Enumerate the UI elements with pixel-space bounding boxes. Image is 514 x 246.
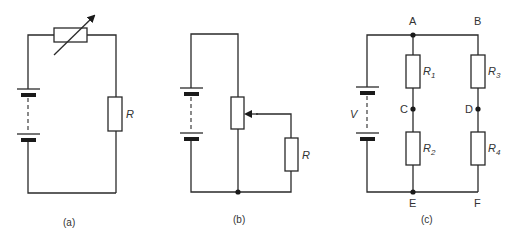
node-label-c: C — [400, 103, 408, 115]
resistor-label-r4: R4 — [488, 142, 501, 157]
resistor-r3-icon — [471, 55, 485, 88]
circuit-b: R (b) — [180, 34, 310, 225]
battery-icon — [356, 87, 379, 139]
node-label-f: F — [474, 197, 481, 209]
resistor-label: R — [302, 149, 310, 161]
node-c-dot — [410, 106, 415, 111]
wires-a — [28, 35, 116, 193]
panel-caption-a: (a) — [63, 217, 75, 228]
resistor-label-r3: R3 — [488, 65, 501, 80]
panel-caption-c: (c) — [421, 214, 433, 225]
resistor-r-icon — [285, 138, 298, 171]
node-label-a: A — [409, 15, 417, 27]
node-a-dot — [410, 32, 415, 37]
resistor-r-icon — [108, 97, 122, 131]
resistor-r1-icon — [406, 55, 420, 88]
circuit-c: V A B C D E F R1 R2 R3 R4 (c) — [350, 15, 501, 225]
battery-icon — [180, 88, 203, 139]
resistor-label-r2: R2 — [423, 142, 436, 157]
node-label-b: B — [474, 15, 481, 27]
junction-dot — [235, 189, 240, 194]
circuit-diagrams: R (a) R (b) — [0, 0, 514, 246]
resistor-r4-icon — [471, 132, 485, 165]
circuit-a: R (a) — [17, 16, 134, 228]
resistor-label: R — [126, 108, 134, 120]
wires-c — [367, 35, 478, 192]
resistor-label-r1: R1 — [423, 65, 435, 80]
voltage-label: V — [350, 108, 359, 120]
node-d-dot — [475, 106, 480, 111]
node-e-dot — [410, 189, 415, 194]
battery-icon — [17, 89, 40, 140]
potentiometer-icon — [231, 97, 258, 129]
panel-caption-b: (b) — [233, 214, 245, 225]
node-label-d: D — [465, 103, 473, 115]
resistor-r2-icon — [406, 132, 420, 165]
node-label-e: E — [409, 197, 416, 209]
